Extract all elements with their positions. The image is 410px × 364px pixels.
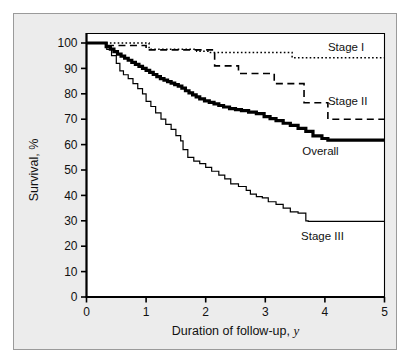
y-tick-label: 50	[64, 163, 78, 177]
x-tick-label: 0	[83, 305, 90, 319]
curve-label-stage-i: Stage I	[328, 41, 364, 53]
curve-label-overall: Overall	[302, 145, 338, 157]
plot-panel	[87, 34, 385, 298]
y-tick-label: 20	[64, 239, 78, 253]
y-tick-label: 90	[64, 62, 78, 76]
x-tick-label: 4	[322, 305, 329, 319]
y-tick-label: 100	[57, 36, 77, 50]
y-tick-label: 30	[64, 214, 78, 228]
x-tick-label: 1	[143, 305, 150, 319]
y-tick-label: 10	[64, 265, 78, 279]
figure-container: 0102030405060708090100012345Survival, %D…	[0, 0, 410, 364]
x-tick-label: 2	[202, 305, 209, 319]
y-tick-label: 80	[64, 87, 78, 101]
y-tick-label: 60	[64, 138, 78, 152]
y-tick-label: 0	[71, 290, 78, 304]
curve-label-stage-iii: Stage III	[301, 230, 344, 242]
y-tick-label: 40	[64, 189, 78, 203]
y-axis-title: Survival, %	[27, 139, 41, 202]
curve-label-stage-ii: Stage II	[328, 95, 368, 107]
survival-chart: 0102030405060708090100012345Survival, %D…	[0, 0, 410, 364]
x-tick-label: 5	[381, 305, 388, 319]
x-axis-title: Duration of follow-up, y	[172, 323, 300, 338]
x-tick-label: 3	[262, 305, 269, 319]
y-tick-label: 70	[64, 112, 78, 126]
